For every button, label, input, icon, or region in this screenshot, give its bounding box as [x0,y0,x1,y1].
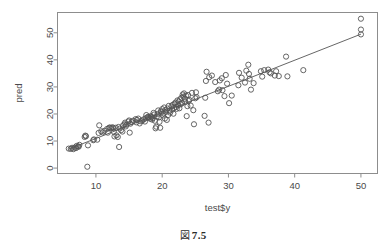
data-point [229,93,234,98]
data-point [358,27,363,32]
x-axis-title: test$y [205,202,231,213]
top-trace-text [0,0,386,7]
y-tick-label: 0 [44,165,55,170]
x-tick-label: 40 [289,180,300,191]
data-point [246,62,251,67]
data-point [358,16,363,21]
data-point [191,108,196,113]
y-tick-label: 50 [44,28,55,39]
figure-container: 102030405001020304050test$ypred 図7.5 [0,0,386,248]
data-point [222,94,227,99]
y-axis-title: pred [13,83,24,102]
data-point [251,81,256,86]
data-point [191,122,196,127]
data-point [85,143,90,148]
data-point [202,113,207,118]
x-tick-label: 50 [356,180,367,191]
y-tick-label: 20 [44,109,55,120]
data-point [283,54,288,59]
caption-marker: 図 [180,230,192,241]
data-point [203,95,208,100]
data-point [226,101,231,106]
data-point [127,130,132,135]
data-point [223,72,228,77]
figure-caption: 図7.5 [0,227,386,242]
data-point [117,144,122,149]
data-point [115,134,120,139]
data-point [206,120,211,125]
x-tick-label: 10 [91,180,102,191]
data-point [184,114,189,119]
scatter-points [66,16,363,169]
data-point [248,87,253,92]
plot-frame [58,13,378,174]
caption-number: 7.5 [192,229,207,241]
data-point [301,68,306,73]
data-point [236,83,241,88]
y-tick-label: 30 [44,82,55,93]
data-point [242,80,247,85]
data-point [97,123,102,128]
data-point [260,74,265,79]
scatter-plot: 102030405001020304050test$ypred [0,0,386,222]
x-tick-label: 30 [223,180,234,191]
data-point [236,70,241,75]
y-tick-label: 40 [44,55,55,66]
x-tick-label: 20 [157,180,168,191]
data-point [285,74,290,79]
data-point [204,69,209,74]
data-point [239,75,244,80]
data-point [225,81,230,86]
data-point [85,164,90,169]
y-tick-label: 10 [44,136,55,147]
